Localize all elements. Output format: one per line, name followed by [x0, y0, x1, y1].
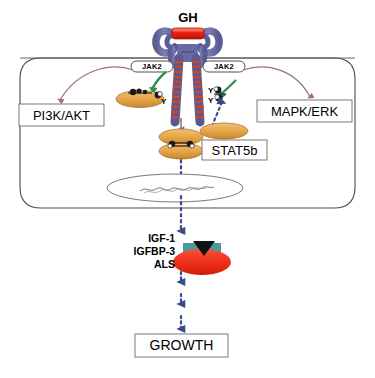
stat5b-box: STAT5b: [202, 140, 267, 160]
growth-box: GROWTH: [135, 334, 228, 357]
jak2-right-label: JAK2: [214, 62, 234, 71]
gh-label: GH: [178, 10, 198, 25]
gh-signaling-pathway-diagram: GH JAK2 JAK2 Y Y: [0, 0, 375, 378]
figure-container: GH JAK2 JAK2 Y Y: [0, 0, 375, 378]
pi3k-akt-label: PI3K/AKT: [33, 108, 90, 123]
gh-ligand: [172, 28, 204, 39]
jak2-left-box: JAK2: [131, 61, 173, 72]
jak2-left-label: JAK2: [142, 62, 162, 71]
igf-ternary-complex: [173, 241, 231, 275]
jak2-right-box: JAK2: [203, 61, 245, 72]
arrow-jak2-to-grb2: [221, 80, 236, 94]
igfbp3-label: IGFBP-3: [134, 245, 176, 257]
receptor-phosphotyrosine-cluster: Y Y: [208, 86, 226, 105]
pi3k-akt-box: PI3K/AKT: [19, 104, 104, 126]
stat5b-label: STAT5b: [212, 143, 258, 158]
mapk-erk-box: MAPK/ERK: [257, 100, 352, 122]
als-label: ALS: [154, 258, 175, 270]
gh-receptor-complex: [156, 28, 219, 122]
arrow-stat5b-recruitment: [212, 102, 222, 126]
nucleus: [107, 174, 243, 202]
tyrosine-label-left: Y: [161, 97, 167, 106]
tyrosine-label-right-2: Y: [208, 96, 214, 105]
arrow-jak2-to-irs: [152, 72, 166, 89]
ghr-transmembrane-legs: [171, 58, 204, 122]
tyrosine-label-right-1: Y: [208, 86, 214, 95]
stat5b-dimer: [159, 129, 203, 159]
growth-label: GROWTH: [150, 337, 214, 353]
stat5b-monomer: [200, 123, 248, 139]
mapk-erk-label: MAPK/ERK: [271, 104, 339, 119]
arrow-to-mapk-erk: [243, 67, 310, 97]
igf1-label: IGF-1: [148, 232, 175, 244]
irs-adaptor-oval: Y: [116, 88, 167, 107]
